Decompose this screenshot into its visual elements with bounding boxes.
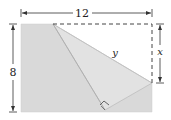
height-label: 8 bbox=[10, 66, 17, 79]
folded-paper-diagram: 12 8 x y bbox=[0, 0, 171, 120]
arrow-up-icon bbox=[158, 25, 162, 30]
width-label: 12 bbox=[75, 7, 89, 20]
x-label: x bbox=[157, 46, 163, 57]
y-label: y bbox=[111, 47, 118, 58]
arrow-down-icon bbox=[158, 77, 162, 82]
arrow-down-icon bbox=[11, 106, 15, 111]
arrow-left-icon bbox=[22, 11, 27, 15]
arrow-up-icon bbox=[11, 25, 15, 30]
arrow-right-icon bbox=[146, 11, 151, 15]
